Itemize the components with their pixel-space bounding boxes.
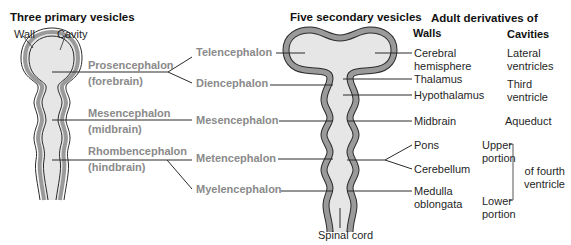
aqueduct-label: Aqueduct (505, 115, 551, 128)
wall-label: Wall (14, 28, 35, 41)
cavity-label: Cavity (57, 28, 88, 41)
primary-vesicle-tube (21, 28, 82, 200)
cerebellum-label: Cerebellum (414, 163, 470, 176)
secondary-vesicle-tube (286, 30, 394, 232)
cavities-header: Cavities (507, 29, 549, 40)
cerebral-hemisphere-label: Cerebral hemisphere (414, 47, 471, 72)
upper-portion-label: Upper portion (482, 139, 516, 164)
spinal-cord-label: Spinal cord (318, 229, 373, 242)
midbrain-label: Midbrain (414, 115, 456, 128)
lower-portion-label: Lower portion (482, 195, 516, 220)
midbrain-common-label: (midbrain) (88, 124, 142, 135)
medulla-oblongata-label: Medulla oblongata (414, 185, 462, 210)
walls-header: Walls (413, 28, 441, 39)
thalamus-label: Thalamus (414, 73, 462, 86)
secondary-title: Five secondary vesicles (290, 12, 422, 24)
fourth-ventricle-label: of fourth ventricle (524, 165, 565, 190)
metencephalon-label: Metencephalon (196, 153, 276, 164)
hindbrain-label: (hindbrain) (88, 162, 145, 173)
rhombencephalon-label: Rhombencephalon (88, 146, 187, 157)
third-ventricle-label: Third ventricle (507, 78, 548, 103)
forebrain-label: (forebrain) (88, 76, 143, 87)
mesencephalon-secondary-label: Mesencephalon (196, 115, 279, 126)
pons-label: Pons (414, 139, 439, 152)
adult-title: Adult derivatives of (431, 13, 538, 25)
prosencephalon-label: Prosencephalon (88, 60, 174, 71)
mesencephalon-primary-label: Mesencephalon (88, 108, 171, 119)
telencephalon-label: Telencephalon (196, 47, 272, 58)
myelencephalon-label: Myelencephalon (196, 184, 282, 195)
primary-title: Three primary vesicles (10, 12, 135, 24)
diencephalon-label: Diencephalon (196, 78, 268, 89)
lateral-ventricles-label: Lateral ventricles (507, 47, 553, 72)
hypothalamus-label: Hypothalamus (414, 89, 484, 102)
